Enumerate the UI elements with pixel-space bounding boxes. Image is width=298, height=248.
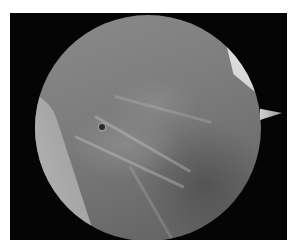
fiber-streak <box>115 95 212 124</box>
fiber-streak <box>74 135 184 188</box>
image-frame <box>10 13 287 240</box>
fiber-streak <box>129 166 177 240</box>
instrument-tip <box>260 106 282 120</box>
cartilage-surface <box>151 15 261 135</box>
tissue-spot <box>99 124 105 130</box>
arthroscopic-field-of-view <box>35 15 261 240</box>
fiber-streak <box>94 115 191 173</box>
left-tissue-band <box>35 80 103 240</box>
